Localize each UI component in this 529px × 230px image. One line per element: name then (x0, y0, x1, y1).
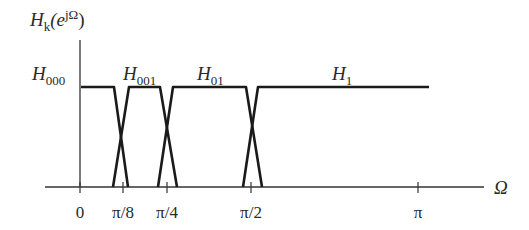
tick-label-0: 0 (76, 203, 85, 222)
label-h001: H001 (122, 63, 156, 88)
tick-label-pi-4: π/4 (156, 203, 178, 222)
h1-curve (243, 87, 429, 187)
y-axis-label: Hk(ejΩ) (29, 7, 85, 34)
label-h1: H1 (331, 63, 352, 88)
filter-bank-diagram: Hk(ejΩ) H000 H001 H01 H1 Ω 0 π/8 π/4 π/2… (0, 0, 529, 230)
tick-label-pi-2: π/2 (240, 203, 262, 222)
tick-label-pi: π (414, 203, 423, 222)
label-h000: H000 (31, 63, 65, 88)
x-axis-label: Ω (494, 177, 508, 198)
label-h01: H01 (196, 63, 224, 88)
tick-label-pi-8: π/8 (112, 203, 134, 222)
h001-curve (113, 87, 177, 187)
